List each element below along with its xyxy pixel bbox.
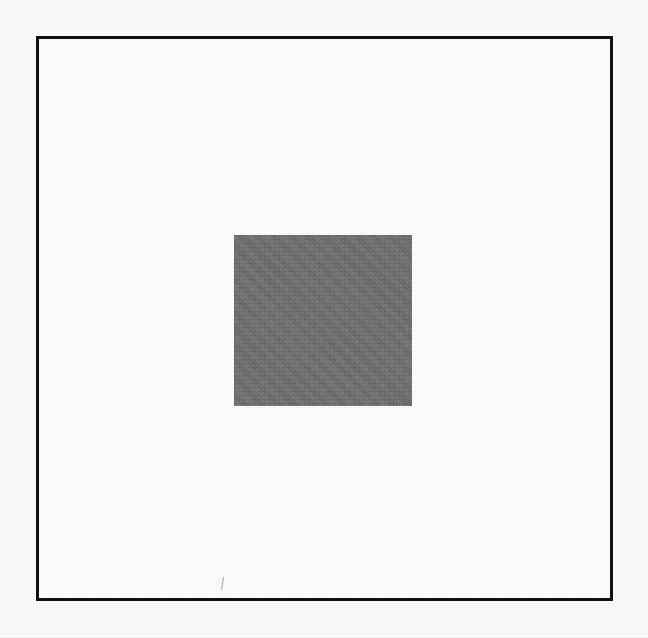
gray-square-texture: [234, 235, 412, 406]
gray-square-texture-secondary: [234, 235, 412, 406]
figure-canvas: A large square outline drawn in black in…: [0, 0, 648, 638]
inner-gray-square: [234, 235, 412, 406]
